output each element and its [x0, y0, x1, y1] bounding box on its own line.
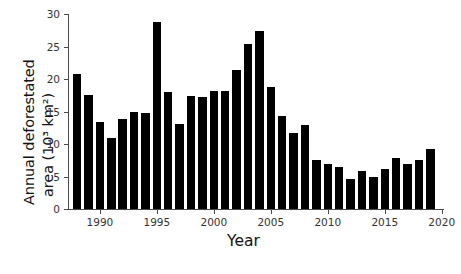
y-tick-label: 5 — [30, 172, 60, 182]
bar — [118, 119, 126, 209]
x-tick-label: 2005 — [251, 216, 291, 228]
bar — [141, 113, 149, 209]
bar — [426, 149, 434, 209]
x-tick-label: 2015 — [365, 216, 405, 228]
bar — [255, 31, 263, 209]
x-tick-mark — [100, 210, 101, 214]
bar — [107, 138, 115, 210]
y-tick-label: 20 — [30, 74, 60, 84]
bar — [346, 179, 354, 209]
y-tick-label: 30 — [30, 9, 60, 19]
bar — [96, 122, 104, 209]
x-tick-mark — [385, 210, 386, 214]
y-tick-label: 0 — [30, 204, 60, 214]
bar — [381, 169, 389, 209]
figure-caption — [2, 258, 152, 270]
x-tick-mark — [157, 210, 158, 214]
bar — [244, 44, 252, 209]
y-tick-mark — [64, 209, 68, 210]
bar — [324, 164, 332, 210]
bar — [301, 125, 309, 209]
bar — [369, 177, 377, 210]
bar — [403, 164, 411, 209]
x-tick-label: 2020 — [422, 216, 461, 228]
bar — [130, 112, 138, 209]
x-axis-title: Year — [0, 232, 461, 250]
bar — [312, 160, 320, 209]
y-axis-ticks: 051015202530 — [0, 0, 68, 230]
bar — [164, 92, 172, 209]
bar — [221, 91, 229, 209]
x-axis-line — [68, 209, 444, 210]
bar — [232, 70, 240, 209]
bar — [210, 91, 218, 209]
deforestation-bar-chart: Annual deforestated area (10³ km²) 05101… — [0, 0, 461, 274]
x-tick-mark — [214, 210, 215, 214]
bar — [392, 158, 400, 209]
bar-series — [68, 14, 444, 209]
x-tick-label: 1995 — [137, 216, 177, 228]
x-tick-mark — [442, 210, 443, 214]
bar — [335, 167, 343, 209]
bar — [267, 87, 275, 209]
x-tick-mark — [271, 210, 272, 214]
bar — [187, 96, 195, 209]
bar — [175, 124, 183, 209]
y-tick-label: 10 — [30, 139, 60, 149]
bar — [415, 160, 423, 209]
bar — [289, 133, 297, 209]
bar — [84, 95, 92, 209]
x-tick-mark — [328, 210, 329, 214]
bar — [153, 22, 161, 209]
x-axis-title-text: Year — [227, 232, 260, 250]
y-tick-label: 15 — [30, 107, 60, 117]
x-tick-label: 2010 — [308, 216, 348, 228]
bar — [278, 116, 286, 209]
bar — [73, 74, 81, 209]
bar — [358, 171, 366, 209]
y-tick-label: 25 — [30, 42, 60, 52]
bar — [198, 97, 206, 209]
x-tick-label: 2000 — [194, 216, 234, 228]
x-tick-label: 1990 — [80, 216, 120, 228]
